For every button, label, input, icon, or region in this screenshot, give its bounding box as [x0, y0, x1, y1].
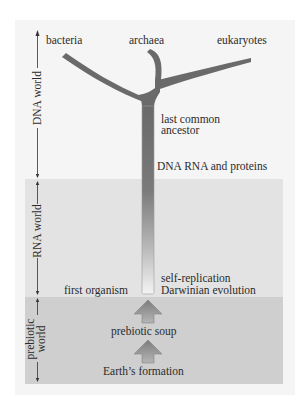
bacteria-branch	[62, 53, 146, 103]
label-dna-world: DNA world	[31, 68, 43, 128]
label-last-common-line2: ancestor	[161, 124, 199, 136]
label-bacteria: bacteria	[46, 34, 82, 46]
label-dna-rna-proteins: DNA RNA and proteins	[157, 160, 267, 172]
label-earths-formation: Earth’s formation	[103, 365, 184, 377]
label-eukaryotes: eukaryotes	[217, 34, 267, 46]
label-archaea: archaea	[129, 34, 164, 46]
label-self-replication: self-replication	[161, 272, 231, 284]
tree-branches	[62, 49, 251, 108]
label-rna-world: RNA world	[31, 201, 43, 261]
label-prebiotic-soup: prebiotic soup	[111, 325, 176, 337]
branch-junction	[138, 84, 160, 108]
tree-stem	[142, 106, 154, 294]
arrow-up-icon	[134, 300, 162, 323]
eukaryotes-branch	[158, 58, 251, 89]
label-prebiotic-world-line2: world	[35, 314, 47, 364]
label-darwinian-evolution: Darwinian evolution	[161, 284, 256, 296]
arrow-up-icon	[134, 340, 162, 363]
label-first-organism: first organism	[64, 284, 128, 296]
